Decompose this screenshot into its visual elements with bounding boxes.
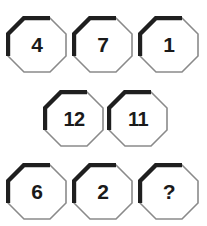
octagon-cell[interactable]: 6 <box>6 163 68 221</box>
octagon-cell[interactable]: 2 <box>72 163 134 221</box>
octagon-cell[interactable]: 11 <box>107 90 169 148</box>
octagon-label: 1 <box>138 16 200 74</box>
puzzle-row-middle: 12 11 <box>43 90 169 148</box>
octagon-label: 12 <box>43 90 105 148</box>
puzzle-row-bottom: 6 2 ? <box>6 163 200 221</box>
octagon-cell[interactable]: 12 <box>43 90 105 148</box>
puzzle-row-top: 4 7 1 <box>6 16 200 74</box>
octagon-cell[interactable]: 4 <box>6 16 68 74</box>
octagon-cell[interactable]: 7 <box>72 16 134 74</box>
octagon-label-unknown: ? <box>138 163 200 221</box>
octagon-label: 2 <box>72 163 134 221</box>
octagon-label: 4 <box>6 16 68 74</box>
octagon-cell-unknown[interactable]: ? <box>138 163 200 221</box>
octagon-label: 11 <box>107 90 169 148</box>
octagon-cell[interactable]: 1 <box>138 16 200 74</box>
octagon-label: 6 <box>6 163 68 221</box>
puzzle-canvas: 4 7 1 12 <box>0 0 207 226</box>
octagon-label: 7 <box>72 16 134 74</box>
